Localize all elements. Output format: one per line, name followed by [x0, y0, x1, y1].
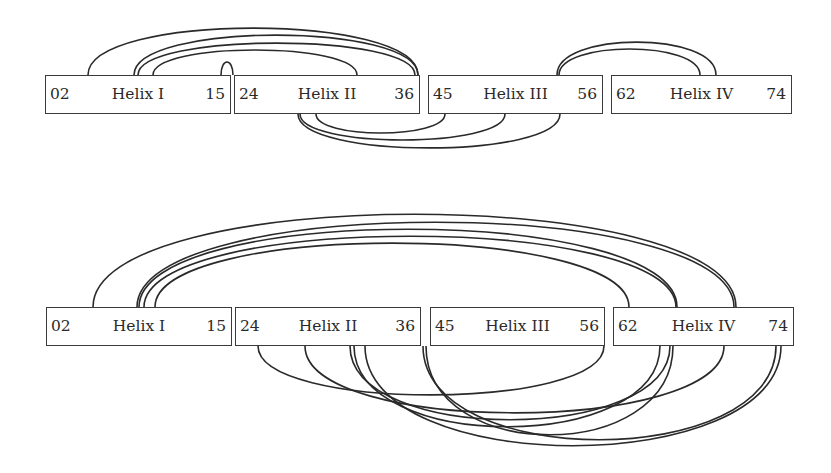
helix-end-residue: 74 — [766, 85, 786, 103]
helix-box-top-4: 62 Helix IV 74 — [611, 75, 792, 114]
helix-box-bottom-3: 45 Helix III 56 — [430, 307, 605, 346]
helix-label: Helix II — [236, 317, 420, 335]
contact-arc-below — [305, 346, 724, 413]
contact-arcs-layer — [0, 0, 831, 473]
helix-box-top-1: 02 Helix I 15 — [45, 75, 231, 114]
helix-box-bottom-1: 02 Helix I 15 — [46, 307, 232, 346]
helix-box-bottom-2: 24 Helix II 36 — [235, 307, 421, 346]
helix-end-residue: 36 — [395, 317, 415, 335]
contact-arc-above — [93, 214, 736, 307]
contact-arc-below — [350, 346, 670, 420]
helix-label: Helix III — [431, 317, 604, 335]
helix-label: Helix I — [46, 85, 230, 103]
helix-end-residue: 15 — [205, 85, 225, 103]
contact-arc-below — [258, 346, 604, 395]
contact-arc-below — [316, 114, 445, 133]
helix-box-top-2: 24 Helix II 36 — [234, 75, 420, 114]
helix-box-bottom-4: 62 Helix IV 74 — [613, 307, 794, 346]
helix-end-residue: 15 — [206, 317, 226, 335]
contact-arc-above — [137, 222, 734, 307]
contact-arc-below — [298, 114, 560, 148]
contact-arc-above — [557, 42, 716, 75]
helix-end-residue: 36 — [394, 85, 414, 103]
helix-label: Helix III — [429, 85, 602, 103]
contact-arc-above — [138, 43, 415, 75]
helix-label: Helix IV — [614, 317, 793, 335]
helix-end-residue: 74 — [768, 317, 788, 335]
helix-label: Helix IV — [612, 85, 791, 103]
contact-arc-above — [134, 35, 418, 75]
helix-end-residue: 56 — [579, 317, 599, 335]
contact-arc-above — [559, 49, 700, 75]
contact-arc-above — [221, 62, 233, 75]
helix-label: Helix I — [47, 317, 231, 335]
contact-arc-above — [155, 243, 629, 307]
helix-box-top-3: 45 Helix III 56 — [428, 75, 603, 114]
helix-end-residue: 56 — [577, 85, 597, 103]
helix-label: Helix II — [235, 85, 419, 103]
contact-arc-above — [139, 229, 677, 307]
contact-arc-above — [153, 50, 357, 75]
contact-arc-below — [354, 346, 660, 427]
contact-arc-below — [426, 346, 673, 435]
